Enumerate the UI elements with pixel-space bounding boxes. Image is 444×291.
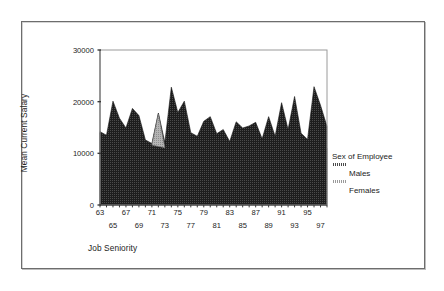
x-axis-title: Job Seniority: [88, 243, 137, 253]
y-tick-label: 20000: [48, 97, 94, 106]
x-tick-label: 63: [96, 208, 104, 217]
legend-swatch-icon: [333, 163, 346, 166]
legend-label: Females: [349, 186, 436, 195]
x-tick-label: 77: [187, 221, 195, 230]
x-tick-label: 87: [251, 208, 259, 217]
x-tick-label: 91: [277, 208, 285, 217]
legend-entry-males: Males: [332, 163, 436, 178]
y-tick-label: 10000: [48, 149, 94, 158]
x-tick-label: 65: [109, 221, 117, 230]
legend: Sex of Employee MalesFemales: [332, 152, 436, 195]
area-chart: [0, 0, 444, 291]
x-tick-label: 67: [122, 208, 130, 217]
x-tick-label: 71: [148, 208, 156, 217]
x-tick-label: 85: [238, 221, 246, 230]
x-tick-label: 73: [161, 221, 169, 230]
x-tick-label: 95: [303, 208, 311, 217]
chart-area: Mean Current Salary Job Seniority 010000…: [0, 0, 444, 291]
legend-label: Males: [349, 169, 436, 178]
x-tick-label: 89: [264, 221, 272, 230]
legend-swatch-icon: [333, 180, 346, 183]
x-tick-label: 81: [213, 221, 221, 230]
x-tick-label: 97: [316, 221, 324, 230]
area-series-males: [100, 87, 327, 205]
scanned-page: Mean Current Salary Job Seniority 010000…: [0, 0, 444, 291]
females-peak-highlight: [152, 114, 165, 148]
x-tick-label: 93: [290, 221, 298, 230]
legend-entry-females: Females: [332, 180, 436, 195]
legend-entries: MalesFemales: [332, 163, 436, 195]
x-tick-label: 79: [200, 208, 208, 217]
y-axis-title: Mean Current Salary: [19, 73, 29, 193]
x-tick-label: 75: [174, 208, 182, 217]
y-tick-label: 0: [48, 201, 94, 210]
y-tick-label: 30000: [48, 46, 94, 55]
x-tick-label: 69: [135, 221, 143, 230]
x-tick-label: 83: [225, 208, 233, 217]
legend-title: Sex of Employee: [332, 152, 436, 161]
